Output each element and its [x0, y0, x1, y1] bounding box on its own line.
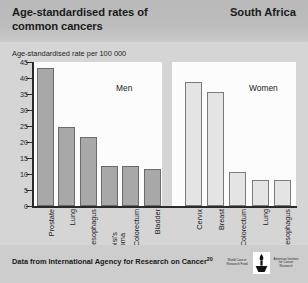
- bar: [122, 166, 139, 206]
- region-label: South Africa: [230, 6, 296, 18]
- page-title: Age-standardised rates of common cancers: [12, 6, 187, 33]
- logo-aicr-text: American Institute for Cancer Research: [272, 258, 300, 269]
- x-tick-label: Colorectum: [240, 209, 248, 246]
- source-note-text: Data from International Agency for Resea…: [12, 257, 207, 266]
- chart-header: Age-standardised rates of common cancers…: [0, 0, 308, 42]
- source-note-reference: 20: [207, 256, 213, 262]
- x-tick-label: Bladder: [154, 209, 162, 234]
- bar: [144, 169, 161, 206]
- bar: [274, 180, 291, 206]
- wcrf-torch-icon: [253, 252, 270, 274]
- source-note: Data from International Agency for Resea…: [12, 256, 213, 266]
- chart-footer: Data from International Agency for Resea…: [0, 245, 308, 283]
- plot-area: 051015202530354045 Men Women ProstateLun…: [11, 62, 297, 237]
- bar: [101, 166, 118, 206]
- group-label-women: Women: [249, 83, 278, 93]
- logo-wcrf-text: World Cancer Research Fund: [223, 259, 251, 266]
- x-tick-label: Cervix: [196, 209, 204, 230]
- x-tick-label: Colorectum: [133, 209, 141, 246]
- group-label-men: Men: [116, 83, 132, 93]
- x-tick-label: Lung: [69, 209, 77, 225]
- bar: [37, 68, 54, 206]
- bar: [207, 92, 224, 206]
- bar: [58, 127, 75, 206]
- bar: [229, 172, 246, 206]
- x-axis-line: [32, 206, 297, 208]
- chart-body: Age-standardised rate per 100 000 051015…: [0, 42, 308, 245]
- chart-figure: Age-standardised rates of common cancers…: [0, 0, 308, 283]
- bar: [252, 180, 269, 206]
- x-tick-label: Prostate: [48, 209, 56, 236]
- bar: [185, 82, 202, 206]
- bar: [80, 137, 97, 206]
- axis-caption: Age-standardised rate per 100 000: [12, 49, 126, 58]
- x-tick-label: Breast: [218, 209, 226, 230]
- logo-group: World Cancer Research Fund American Inst…: [216, 250, 300, 276]
- x-tick-label: Lung: [262, 209, 270, 225]
